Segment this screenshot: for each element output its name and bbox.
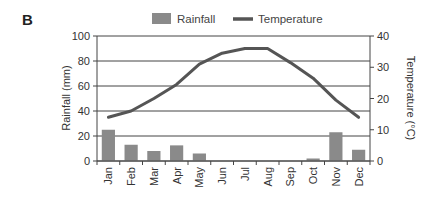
right-tick-label: 30 bbox=[377, 61, 389, 73]
x-tick-label: Jan bbox=[102, 167, 114, 185]
x-tick-label: Jul bbox=[239, 167, 251, 181]
right-tick-label: 40 bbox=[377, 30, 389, 42]
rainfall-bar bbox=[193, 154, 206, 162]
legend-rainfall-swatch bbox=[152, 13, 171, 24]
x-tick-label: Nov bbox=[330, 167, 342, 187]
temperature-line bbox=[108, 49, 358, 118]
right-tick-label: 0 bbox=[377, 155, 383, 167]
x-tick-label: Jun bbox=[216, 167, 228, 185]
left-tick-label: 100 bbox=[72, 30, 90, 42]
left-tick-label: 60 bbox=[78, 80, 90, 92]
rainfall-bar bbox=[125, 145, 138, 161]
x-tick-label: Oct bbox=[307, 167, 319, 184]
rainfall-bar bbox=[102, 130, 115, 161]
x-tick-label: May bbox=[193, 167, 205, 188]
right-tick-label: 10 bbox=[377, 124, 389, 136]
x-tick-label: Apr bbox=[171, 167, 183, 184]
right-tick-label: 20 bbox=[377, 93, 389, 105]
gridlines bbox=[97, 36, 370, 161]
legend-rainfall-label: Rainfall bbox=[177, 13, 215, 25]
legend-temperature-label: Temperature bbox=[258, 13, 323, 25]
x-tick-label: Aug bbox=[262, 167, 274, 187]
left-tick-label: 40 bbox=[78, 105, 90, 117]
left-tick-label: 80 bbox=[78, 55, 90, 67]
x-tick-label: Mar bbox=[148, 167, 160, 186]
legend: Rainfall Temperature bbox=[152, 13, 323, 25]
x-tick-label: Dec bbox=[353, 167, 365, 187]
right-axis-title: Temperature (°C) bbox=[405, 56, 417, 140]
left-axis-title: Rainfall (mm) bbox=[60, 65, 72, 130]
rainfall-bars bbox=[102, 130, 365, 161]
rainfall-bar bbox=[329, 132, 342, 161]
rainfall-bar bbox=[170, 145, 183, 161]
left-tick-label: 20 bbox=[78, 130, 90, 142]
climate-chart: Rainfall Temperature 0204060801000102030… bbox=[0, 0, 427, 198]
temperature-polyline bbox=[108, 49, 358, 118]
left-tick-label: 0 bbox=[84, 155, 90, 167]
x-tick-label: Sep bbox=[284, 167, 296, 187]
rainfall-bar bbox=[147, 151, 160, 161]
x-tick-label: Feb bbox=[125, 167, 137, 186]
rainfall-bar bbox=[352, 150, 365, 161]
